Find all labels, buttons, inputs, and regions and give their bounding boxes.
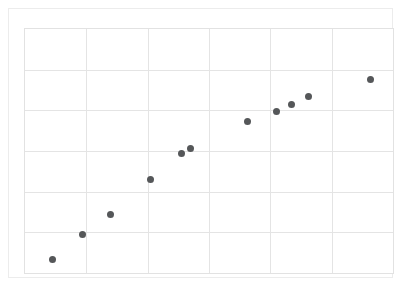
data-point <box>178 150 185 157</box>
data-point <box>367 76 374 83</box>
data-point <box>147 176 154 183</box>
gridline-horizontal <box>25 70 393 71</box>
data-point <box>273 108 280 115</box>
data-point <box>107 211 114 218</box>
data-point <box>187 145 194 152</box>
figure-outer-frame <box>8 8 393 278</box>
data-point <box>244 118 251 125</box>
data-point <box>49 256 56 263</box>
plot-area <box>24 28 394 274</box>
gridline-horizontal <box>25 151 393 152</box>
data-point <box>288 101 295 108</box>
data-point <box>305 93 312 100</box>
gridline-horizontal <box>25 192 393 193</box>
data-point <box>79 231 86 238</box>
scatter-chart-figure <box>0 0 402 287</box>
gridline-horizontal <box>25 110 393 111</box>
